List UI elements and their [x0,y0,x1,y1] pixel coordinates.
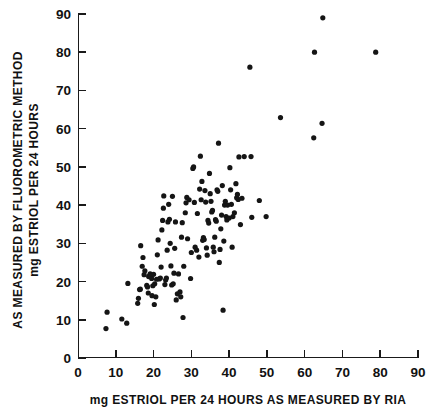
data-point [153,294,158,299]
data-point [197,186,202,191]
data-point [202,188,207,193]
data-point [145,284,150,289]
y-tick-label: 10 [56,313,71,328]
data-point [177,289,182,294]
data-point [138,243,143,248]
data-point [152,281,157,286]
data-point [229,202,234,207]
data-points-group [103,15,378,331]
data-point [162,282,167,287]
data-point [235,192,240,197]
data-point [311,135,316,140]
data-point [207,171,212,176]
data-point [198,154,203,159]
data-point [178,294,183,299]
data-point [155,252,160,257]
data-point [181,264,186,269]
data-point [216,141,221,146]
data-point [257,198,262,203]
x-tick-label: 20 [146,365,161,380]
scatter-chart-figure: 0102030405060708090 0102030405060708090 … [0,0,438,419]
data-point [138,287,143,292]
data-point [135,301,140,306]
y-tick-label: 20 [56,275,71,290]
data-point [196,254,201,259]
x-tick-label: 50 [259,365,274,380]
x-tick-label: 0 [74,365,82,380]
data-point [211,245,216,250]
y-axis-title-line2: AS MEASURED BY FLUOROMETRIC METHOD [11,51,25,328]
data-point [204,245,209,250]
data-point [103,326,108,331]
data-point [373,50,378,55]
data-point [248,154,253,159]
data-point [158,276,163,281]
data-point [230,245,235,250]
data-point [208,191,213,196]
data-point [188,276,193,281]
data-point [242,154,247,159]
x-axis-title: mg ESTRIOL PER 24 HOURS AS MEASURED BY R… [90,393,407,407]
data-point [236,154,241,159]
data-point [219,212,224,217]
data-point [320,15,325,20]
data-point [233,181,238,186]
data-point [168,241,173,246]
data-point [195,211,200,216]
y-axis-title-line1: mg ESTRIOL PER 24 HOURS [27,103,41,277]
data-point [155,237,160,242]
y-tick-label: 40 [56,198,71,213]
data-point [217,260,222,265]
data-point [208,199,213,204]
data-point [125,281,130,286]
data-point [202,237,207,242]
x-axis-tick-labels: 0102030405060708090 [74,365,425,380]
data-point [210,208,215,213]
data-point [140,255,145,260]
data-point [199,179,204,184]
data-point [249,215,254,220]
x-tick-label: 80 [373,365,388,380]
data-point [179,235,184,240]
data-point [172,246,177,251]
data-point [214,219,219,224]
data-point [167,217,172,222]
data-point [119,316,124,321]
data-point [161,206,166,211]
data-point [161,193,166,198]
x-tick-label: 40 [222,365,237,380]
data-point [124,321,129,326]
data-point [217,247,222,252]
data-point [140,264,145,269]
data-point [194,248,199,253]
data-point [168,263,173,268]
y-tick-label: 70 [56,83,71,98]
data-point [185,236,190,241]
y-tick-label: 30 [56,236,71,251]
data-point [180,220,185,225]
x-tick-label: 90 [410,365,425,380]
data-point [136,296,141,301]
data-point [159,264,164,269]
data-point [220,308,225,313]
data-point [203,199,208,204]
data-point [221,238,226,243]
data-point [239,196,244,201]
data-point [173,219,178,224]
y-tick-label: 50 [56,160,71,175]
data-point [166,202,171,207]
data-point [170,194,175,199]
data-point [238,222,243,227]
data-point [160,218,165,223]
data-point [186,197,191,202]
data-point [264,214,269,219]
data-point [215,189,220,194]
data-point [199,197,204,202]
data-point [171,281,176,286]
data-point [104,310,109,315]
x-tick-label: 30 [184,365,199,380]
data-point [164,276,169,281]
data-point [183,210,188,215]
data-point [206,220,211,225]
data-point [278,115,283,120]
